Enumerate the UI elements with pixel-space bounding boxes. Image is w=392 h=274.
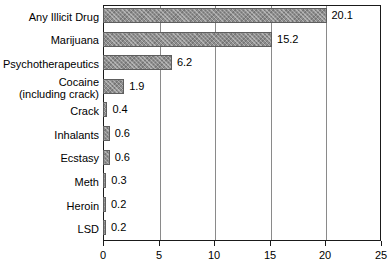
bar[interactable] [103,79,124,94]
category-label: Psychotherapeutics [0,58,99,70]
bar-row: 0.6 [103,123,381,147]
bar-chart: Any Illicit DrugMarijuanaPsychotherapeut… [0,0,392,274]
bar-row: 20.1 [103,5,381,29]
bar[interactable] [103,102,107,117]
bar[interactable] [103,197,106,212]
bar-row: 15.2 [103,29,381,53]
category-label: LSD [0,223,99,235]
bar-value-label: 0.6 [115,150,130,165]
x-tick-mark [381,241,382,246]
bar-row: 0.2 [103,194,381,218]
x-tick-label: 25 [375,249,387,261]
bar[interactable] [103,220,106,235]
bar-value-label: 6.2 [177,55,192,70]
x-tick-label: 10 [208,249,220,261]
category-label-line: (including crack) [0,88,99,100]
bar-row: 0.3 [103,170,381,194]
x-tick-label: 0 [100,249,106,261]
bar-value-label: 0.2 [111,220,126,235]
bar-row: 0.2 [103,217,381,241]
category-label: Inhalants [0,129,99,141]
x-axis: 0510152025 [103,241,381,274]
x-tick-label: 15 [264,249,276,261]
x-tick-mark [214,241,215,246]
category-label: Meth [0,176,99,188]
bar-value-label: 20.1 [332,8,353,23]
bar[interactable] [103,173,106,188]
bar-value-label: 0.6 [115,126,130,141]
bar-value-label: 0.3 [111,173,126,188]
category-axis-labels: Any Illicit DrugMarijuanaPsychotherapeut… [0,5,99,241]
bar-value-label: 0.4 [112,102,127,117]
category-label: Ecstasy [0,152,99,164]
x-tick-mark [270,241,271,246]
x-tick-mark [103,241,104,246]
bar-row: 1.9 [103,76,381,100]
bar[interactable] [103,8,327,23]
x-tick-mark [159,241,160,246]
bar[interactable] [103,126,110,141]
bar-row: 6.2 [103,52,381,76]
bar[interactable] [103,55,172,70]
category-label: Crack [0,105,99,117]
bar-value-label: 15.2 [277,32,298,47]
bar-row: 0.6 [103,147,381,171]
bar[interactable] [103,150,110,165]
x-tick-mark [325,241,326,246]
category-label: Cocaine(including crack) [0,76,99,100]
x-tick-label: 20 [319,249,331,261]
category-label: Any Illicit Drug [0,11,99,23]
bar-value-label: 0.2 [111,197,126,212]
bar-row: 0.4 [103,99,381,123]
x-tick-label: 5 [156,249,162,261]
category-label-line: Cocaine [0,76,99,88]
bars-layer: 20.115.26.21.90.40.60.60.30.20.2 [103,5,381,241]
bar-value-label: 1.9 [129,79,144,94]
bar[interactable] [103,32,272,47]
category-label: Marijuana [0,34,99,46]
category-label: Heroin [0,200,99,212]
